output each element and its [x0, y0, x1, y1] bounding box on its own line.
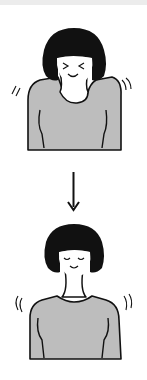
motion-marks-right-icon: [122, 78, 131, 90]
face-relaxed: [59, 251, 91, 277]
motion-marks-left-icon: [12, 86, 20, 96]
motion-marks-right-relaxed-icon: [124, 294, 132, 310]
figure-shoulders-raised: [12, 28, 131, 150]
shoulder-exercise-illustration: [0, 0, 147, 380]
figure-shoulders-relaxed: [16, 224, 132, 359]
motion-marks-left-relaxed-icon: [16, 296, 22, 312]
down-arrow-icon: [68, 172, 79, 210]
